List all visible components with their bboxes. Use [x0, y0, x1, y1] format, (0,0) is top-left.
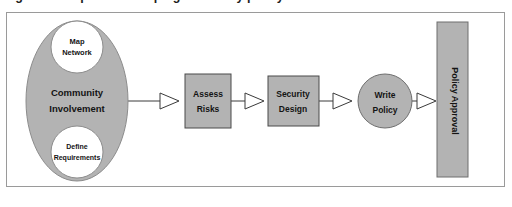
node-write-policy-label-2: Policy [372, 105, 397, 115]
node-define-requirements-label-1: Define [66, 143, 88, 150]
node-assess-risks-label-1: Assess [193, 89, 223, 99]
process-flow-diagram: Community Involvement Map Network Define… [0, 0, 512, 207]
node-security-design-label-1: Security [276, 89, 310, 99]
node-define-requirements-label-2: Requirements [54, 154, 101, 162]
node-policy-approval[interactable]: Policy Approval [437, 22, 468, 177]
node-map-network-label-2: Network [62, 48, 92, 57]
node-policy-approval-label: Policy Approval [450, 67, 460, 135]
connector-assess-to-security [231, 93, 264, 109]
node-map-network-label-1: Map [70, 37, 85, 46]
node-assess-risks-label-2: Risks [197, 104, 220, 114]
node-security-design-label-2: Design [279, 104, 307, 114]
node-security-design[interactable]: Security Design [268, 76, 319, 126]
node-map-network[interactable]: Map Network [51, 21, 103, 73]
node-community-involvement-label-2: Involvement [49, 103, 105, 114]
connector-write-to-approval [412, 93, 436, 109]
node-assess-risks[interactable]: Assess Risks [185, 74, 231, 128]
node-community-involvement[interactable]: Community Involvement Map Network Define… [26, 21, 128, 181]
connector-community-to-assess [128, 93, 179, 109]
node-define-requirements[interactable]: Define Requirements [51, 126, 103, 178]
node-write-policy[interactable]: Write Policy [358, 74, 412, 128]
connector-security-to-write [319, 93, 352, 109]
node-community-involvement-label-1: Community [51, 87, 104, 98]
node-write-policy-label-1: Write [374, 90, 395, 100]
